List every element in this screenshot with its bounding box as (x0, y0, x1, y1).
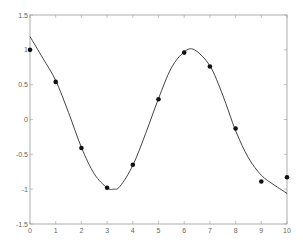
x-axis-tick-labels: 012345678910 (28, 227, 291, 234)
data-point (79, 146, 84, 151)
x-tick-label: 0 (28, 227, 32, 234)
data-point (131, 162, 136, 167)
y-tick-label: 1.5 (18, 12, 28, 19)
x-tick-label: 5 (157, 227, 161, 234)
data-point (208, 64, 213, 69)
data-point (105, 185, 110, 190)
x-tick-label: 1 (54, 227, 58, 234)
y-tick-label: -0.5 (16, 151, 28, 158)
chart: 012345678910 1.510.50-0.5-1-1.5 (0, 0, 303, 245)
x-tick-label: 4 (131, 227, 135, 234)
data-point (182, 50, 187, 55)
y-tick-label: -1 (22, 186, 28, 193)
data-point (156, 97, 161, 102)
plot-area (30, 15, 287, 224)
y-tick-label: -1.5 (16, 221, 28, 228)
data-point (28, 48, 33, 53)
data-point (259, 179, 264, 184)
x-tick-label: 10 (283, 227, 291, 234)
data-point (53, 80, 58, 85)
y-tick-label: 0.5 (18, 81, 28, 88)
y-axis-tick-labels: 1.510.50-0.5-1-1.5 (16, 12, 28, 228)
x-tick-label: 2 (79, 227, 83, 234)
data-point (233, 126, 238, 131)
x-tick-label: 6 (182, 227, 186, 234)
x-tick-label: 3 (105, 227, 109, 234)
x-tick-label: 7 (208, 227, 212, 234)
data-point (285, 175, 290, 180)
y-tick-label: 0 (24, 116, 28, 123)
x-tick-label: 8 (234, 227, 238, 234)
y-tick-label: 1 (24, 46, 28, 53)
x-tick-label: 9 (259, 227, 263, 234)
